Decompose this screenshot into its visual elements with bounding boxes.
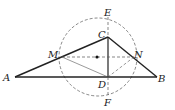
geometry-diagram: A B C D M N E F bbox=[0, 0, 175, 110]
label-e: E bbox=[103, 7, 112, 18]
label-c: C bbox=[98, 29, 106, 40]
label-b: B bbox=[157, 73, 165, 84]
label-d: D bbox=[97, 79, 106, 90]
segment-nd bbox=[108, 57, 134, 77]
label-m: M bbox=[47, 49, 59, 60]
segment-md bbox=[62, 57, 108, 77]
label-a: A bbox=[2, 72, 10, 83]
center-point bbox=[95, 55, 98, 58]
label-n: N bbox=[133, 49, 144, 60]
label-f: F bbox=[103, 97, 112, 108]
